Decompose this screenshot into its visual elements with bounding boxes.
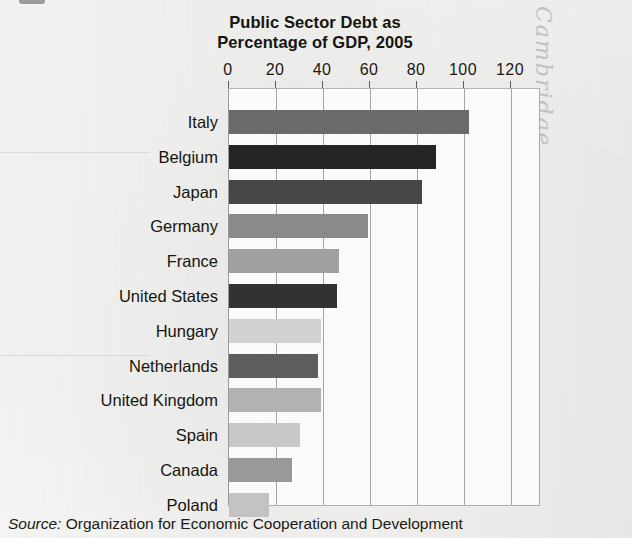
x-tick-mark-40 <box>322 81 323 88</box>
bar-netherlands <box>229 354 318 378</box>
x-tick-mark-0 <box>228 81 229 88</box>
bar-row: Canada <box>0 458 632 482</box>
chart-title-line2: Percentage of GDP, 2005 <box>150 32 480 52</box>
bar-spain <box>229 423 300 447</box>
x-tick-mark-100 <box>463 81 464 88</box>
bar-hungary <box>229 319 321 343</box>
bar-japan <box>229 180 422 204</box>
source-text: Organization for Economic Cooperation an… <box>66 515 463 532</box>
x-tick-label-120: 120 <box>496 61 524 79</box>
category-label-canada: Canada <box>0 458 218 482</box>
category-label-united-kingdom: United Kingdom <box>0 388 218 412</box>
bar-united-kingdom <box>229 388 321 412</box>
bar-row: United Kingdom <box>0 388 632 412</box>
bar-row: Belgium <box>0 145 632 169</box>
x-tick-label-0: 0 <box>223 61 232 79</box>
bar-poland <box>229 493 269 517</box>
category-label-japan: Japan <box>0 180 218 204</box>
chart-title-line1: Public Sector Debt as <box>229 13 401 31</box>
bar-row: United States <box>0 284 632 308</box>
x-tick-mark-80 <box>416 81 417 88</box>
chart-title: Public Sector Debt as Percentage of GDP,… <box>150 12 480 52</box>
bar-row: Netherlands <box>0 354 632 378</box>
bar-united-states <box>229 284 337 308</box>
scan-artifact-mark <box>19 0 45 4</box>
category-label-germany: Germany <box>0 214 218 238</box>
x-tick-label-80: 80 <box>407 61 426 79</box>
bar-italy <box>229 110 469 134</box>
category-label-united-states: United States <box>0 284 218 308</box>
bar-canada <box>229 458 292 482</box>
bar-france <box>229 249 339 273</box>
category-label-belgium: Belgium <box>0 145 218 169</box>
category-label-italy: Italy <box>0 110 218 134</box>
bar-row: Japan <box>0 180 632 204</box>
x-tick-label-20: 20 <box>266 61 285 79</box>
x-tick-mark-60 <box>369 81 370 88</box>
x-tick-mark-120 <box>510 81 511 88</box>
category-label-poland: Poland <box>0 493 218 517</box>
category-label-spain: Spain <box>0 423 218 447</box>
bar-germany <box>229 214 368 238</box>
bar-row: France <box>0 249 632 273</box>
bar-row: Hungary <box>0 319 632 343</box>
x-tick-label-100: 100 <box>449 61 477 79</box>
bar-belgium <box>229 145 436 169</box>
bar-row: Poland <box>0 493 632 517</box>
bar-row: Italy <box>0 110 632 134</box>
x-tick-label-60: 60 <box>360 61 379 79</box>
x-tick-mark-20 <box>275 81 276 88</box>
bar-row: Germany <box>0 214 632 238</box>
bar-row: Spain <box>0 423 632 447</box>
category-label-france: France <box>0 249 218 273</box>
category-label-hungary: Hungary <box>0 319 218 343</box>
category-label-netherlands: Netherlands <box>0 354 218 378</box>
source-label: Source: <box>8 515 61 532</box>
source-note: Source: Organization for Economic Cooper… <box>8 515 463 533</box>
x-tick-label-40: 40 <box>313 61 332 79</box>
